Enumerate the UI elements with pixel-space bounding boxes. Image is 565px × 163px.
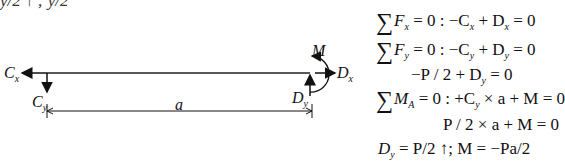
cy-label: Cy — [32, 93, 47, 113]
equation-ma-sub: P / 2 × a + M = 0 — [443, 116, 559, 133]
cx-label: Cx — [4, 64, 19, 84]
equation-sum-fx: ∑Fx = 0 : −Cx + Dx = 0 — [376, 10, 536, 34]
equation-sum-ma: ∑MA = 0 : +Cy × a + M = 0 — [376, 88, 565, 112]
equation-result: Dy = P/2 ↑; M = −Pa/2 — [378, 140, 530, 160]
length-label: a — [175, 96, 183, 114]
dx-label: Dx — [337, 64, 353, 84]
moment-label: M — [312, 42, 325, 60]
equation-fy-sub: −P / 2 + Dy = 0 — [411, 66, 513, 86]
dy-label: Dy — [292, 89, 308, 109]
moment-arrow-icon — [310, 56, 329, 92]
free-body-diagram — [0, 0, 350, 163]
equation-sum-fy: ∑Fy = 0 : −Cy + Dy = 0 — [376, 39, 536, 63]
